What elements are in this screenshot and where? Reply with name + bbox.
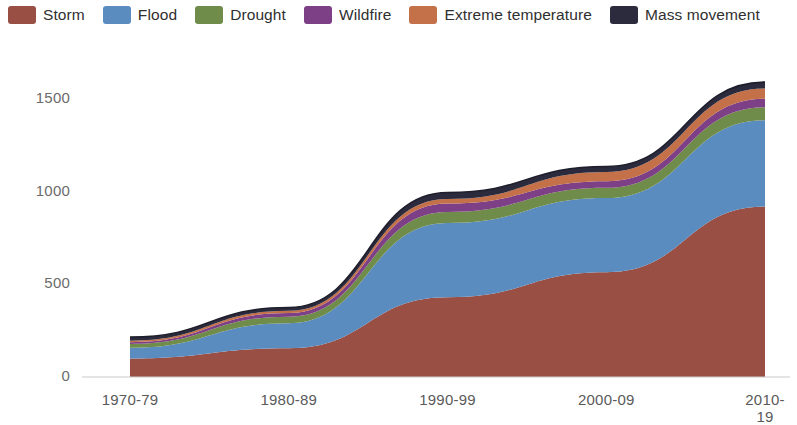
legend-swatch-flood [103, 6, 131, 24]
y-axis-tick-1000: 1000 [8, 182, 70, 199]
y-axis-tick-0: 0 [8, 367, 70, 384]
legend-item-extreme-temperature[interactable]: Extreme temperature [409, 6, 592, 24]
legend-swatch-drought [195, 6, 223, 24]
y-axis-tick-1500: 1500 [8, 89, 70, 106]
x-axis-tick-1980-89: 1980-89 [261, 391, 317, 408]
legend-item-wildfire[interactable]: Wildfire [304, 6, 391, 24]
legend-swatch-extreme-temperature [409, 6, 437, 24]
legend-item-storm[interactable]: Storm [8, 6, 85, 24]
legend-item-drought[interactable]: Drought [195, 6, 286, 24]
x-axis-tick-2000-09: 2000-09 [578, 391, 634, 408]
legend-label-flood: Flood [138, 6, 177, 24]
legend-swatch-storm [8, 6, 36, 24]
legend-label-storm: Storm [43, 6, 85, 24]
x-axis-tick-1990-99: 1990-99 [419, 391, 475, 408]
legend-swatch-mass-movement [610, 6, 638, 24]
y-axis-tick-500: 500 [8, 274, 70, 291]
chart-legend: Storm Flood Drought Wildfire Extreme tem… [0, 0, 797, 30]
stacked-area-chart [0, 30, 797, 410]
legend-label-extreme-temperature: Extreme temperature [444, 6, 592, 24]
chart-plot-area: 050010001500 1970-791980-891990-992000-0… [0, 30, 797, 410]
area-series-group [130, 82, 765, 377]
legend-item-mass-movement[interactable]: Mass movement [610, 6, 760, 24]
x-axis-tick-2010-19: 2010-19 [745, 391, 784, 425]
legend-label-drought: Drought [230, 6, 286, 24]
legend-label-wildfire: Wildfire [339, 6, 391, 24]
x-axis-tick-1970-79: 1970-79 [102, 391, 158, 408]
legend-swatch-wildfire [304, 6, 332, 24]
legend-label-mass-movement: Mass movement [645, 6, 760, 24]
legend-item-flood[interactable]: Flood [103, 6, 177, 24]
